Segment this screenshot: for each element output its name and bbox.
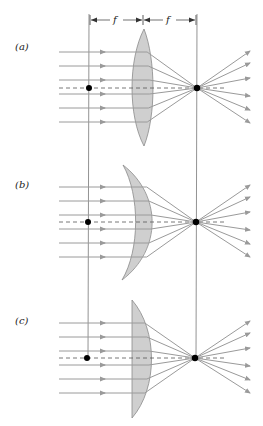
refracted-ray <box>147 358 195 379</box>
refracted-ray <box>147 52 197 88</box>
refracted-ray <box>145 323 195 358</box>
panel-label-b: (b) <box>15 179 29 190</box>
diverging-ray <box>195 333 250 358</box>
refracted-ray <box>147 222 196 257</box>
back-focal-point <box>194 85 200 91</box>
diverging-ray <box>195 358 250 366</box>
biconvex-lens <box>132 29 153 146</box>
diverging-ray <box>197 88 250 123</box>
diverging-ray <box>196 197 250 222</box>
diverging-ray <box>195 358 250 393</box>
refracted-ray <box>149 201 196 222</box>
plano-convex-lens <box>132 300 152 418</box>
diverging-ray <box>197 88 250 110</box>
front-focal-point <box>84 355 90 361</box>
refracted-ray <box>145 358 195 393</box>
panel-a <box>59 29 250 146</box>
left-focal-guide-line <box>88 14 89 357</box>
focal-length-dimension: f f <box>90 14 196 25</box>
dimension-label-left: f <box>112 14 119 25</box>
diverging-ray <box>197 63 250 88</box>
diverging-ray <box>196 222 250 257</box>
back-focal-point <box>192 355 198 361</box>
lens-diagram: f f (a) (b) (c) <box>0 0 263 426</box>
right-focal-guide-line <box>196 14 197 358</box>
front-focal-point <box>86 85 92 91</box>
diverging-ray <box>196 222 250 230</box>
front-focal-point <box>85 219 91 225</box>
back-focal-point <box>193 219 199 225</box>
diverging-ray <box>196 185 250 222</box>
panel-c <box>59 300 250 418</box>
diverging-ray <box>197 88 250 96</box>
panel-label-c: (c) <box>15 315 29 326</box>
dimension-label-right: f <box>165 14 172 25</box>
refracted-ray <box>147 187 196 222</box>
meniscus-lens <box>122 165 152 280</box>
diverging-ray <box>197 51 250 88</box>
panel-label-a: (a) <box>15 41 29 52</box>
diverging-ray <box>196 222 250 244</box>
refracted-ray <box>148 66 197 88</box>
refracted-ray <box>149 80 197 88</box>
refracted-ray <box>147 337 195 358</box>
diverging-ray <box>195 321 250 358</box>
panel-b <box>59 165 250 280</box>
refracted-ray <box>149 222 196 243</box>
diverging-ray <box>195 358 250 380</box>
